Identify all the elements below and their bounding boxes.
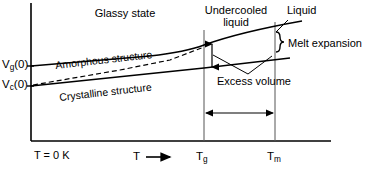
plot-canvas bbox=[0, 0, 365, 172]
x-tick-label-tm: Tm bbox=[267, 150, 281, 165]
x-tick-tm-subscript: m bbox=[274, 155, 281, 164]
x-tick-tm-symbol: T bbox=[267, 150, 274, 162]
x-axis-label: T bbox=[133, 150, 140, 162]
excess-volume-leader-a bbox=[213, 55, 248, 74]
y-tick-vc0-suffix: (0) bbox=[14, 78, 28, 90]
annotation-excess-volume: Excess volume bbox=[217, 76, 291, 88]
region-label-undercooled-liquid-line2: liquid bbox=[196, 17, 276, 29]
y-tick-vg0-suffix: (0) bbox=[14, 58, 28, 70]
volume-temperature-diagram: Glassy state Undercooled liquid Liquid A… bbox=[0, 0, 365, 172]
melt-expansion-brace bbox=[276, 32, 284, 52]
annotation-melt-expansion: Melt expansion bbox=[288, 38, 362, 50]
y-tick-vg0-symbol: V bbox=[2, 58, 10, 70]
x-tick-tg-subscript: g bbox=[203, 155, 208, 164]
region-label-liquid: Liquid bbox=[287, 5, 316, 17]
y-tick-vc0-symbol: V bbox=[2, 78, 10, 90]
region-label-undercooled-liquid-line1: Undercooled bbox=[196, 5, 276, 17]
y-tick-label-vc0: Vc(0) bbox=[2, 78, 28, 93]
region-label-glassy-state: Glassy state bbox=[70, 8, 180, 20]
excess-volume-leader-b bbox=[248, 56, 272, 74]
x-tick-label-tg: Tg bbox=[196, 150, 208, 165]
origin-label: T = 0 K bbox=[34, 150, 70, 162]
x-tick-tg-symbol: T bbox=[196, 150, 203, 162]
y-tick-label-vg0: Vg(0) bbox=[2, 58, 28, 73]
